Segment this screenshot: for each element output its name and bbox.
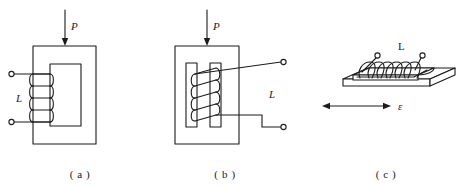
- terminal-right: [420, 53, 425, 58]
- coil-label-l: L: [398, 40, 405, 52]
- diagram-panel-b: P L ( b ): [150, 0, 300, 186]
- force-arrow-p: [62, 10, 68, 46]
- terminal-bottom: [9, 119, 14, 124]
- terminal-top: [9, 71, 14, 76]
- core-inner-window: [50, 64, 81, 126]
- panel-c-drawing: L ε: [300, 0, 472, 160]
- coil-label-l: L: [15, 92, 22, 104]
- panel-b-drawing: P L: [150, 0, 300, 160]
- terminal-bottom: [281, 124, 286, 129]
- figure-root: P L ( a ): [0, 0, 472, 186]
- diagram-panel-c: L ε ( c ): [300, 0, 472, 186]
- force-label-p: P: [70, 20, 78, 32]
- force-arrow-p: [204, 10, 210, 46]
- strain-arrow: [322, 103, 391, 109]
- terminal-left: [375, 53, 380, 58]
- core-outer-frame: [33, 46, 96, 144]
- caption-a: ( a ): [0, 168, 160, 180]
- coil-label-l: L: [268, 88, 275, 100]
- caption-c: ( c ): [300, 168, 472, 180]
- strain-label-epsilon: ε: [398, 100, 403, 112]
- diagram-panel-a: P L ( a ): [0, 0, 160, 186]
- terminal-top: [281, 59, 286, 64]
- panel-a-drawing: P L: [0, 0, 160, 160]
- coil-winding: [191, 68, 220, 121]
- force-label-p: P: [212, 20, 220, 32]
- caption-b: ( b ): [150, 168, 300, 180]
